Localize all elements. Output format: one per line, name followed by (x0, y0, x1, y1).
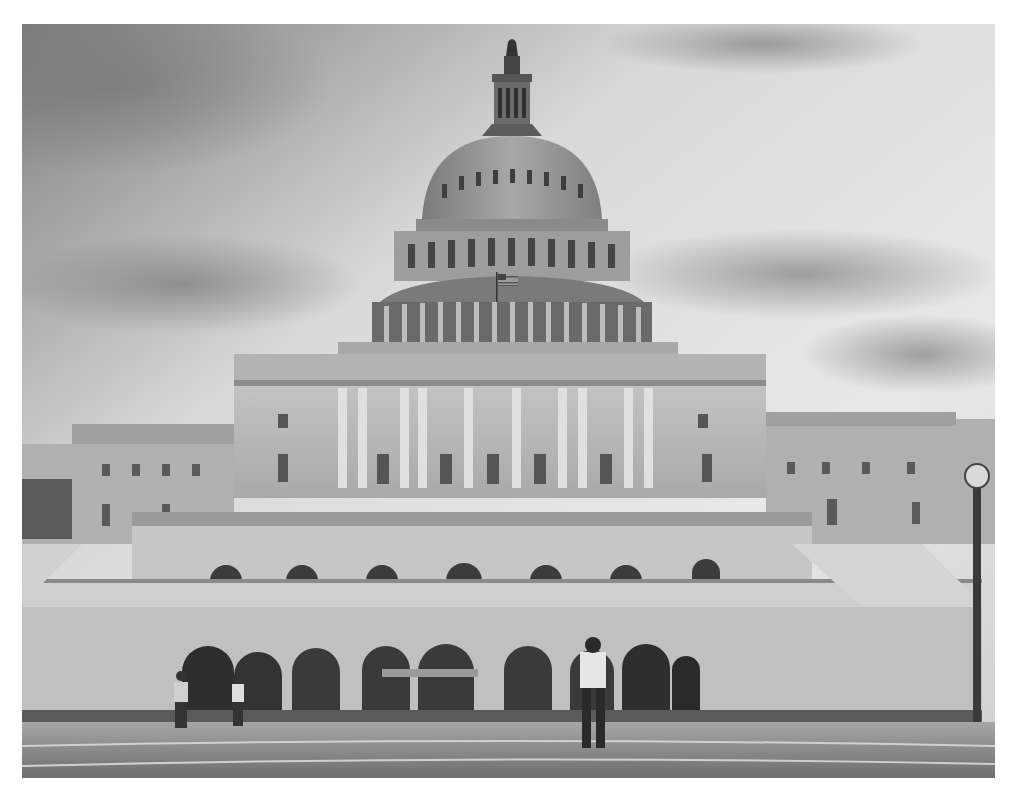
central-facade (234, 380, 766, 498)
capitol-illustration (22, 24, 995, 778)
central-attic (234, 354, 766, 380)
dark-cloud (602, 229, 995, 319)
terrace-balustrade (132, 512, 812, 526)
plaza (22, 722, 995, 778)
fountain-basin (382, 669, 478, 677)
lower-terrace-wall (22, 607, 982, 712)
capitol-photo: Grayscale photo of the U.S. Capitol dome… (22, 24, 995, 778)
hedge (22, 710, 982, 722)
